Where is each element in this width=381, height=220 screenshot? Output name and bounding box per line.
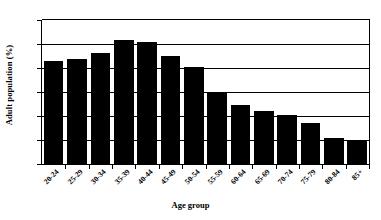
bar [114,40,134,164]
x-axis-tick-labels: 20-2425-2930-3435-3940-4445-4950-5455-59… [41,168,368,198]
bar-slot [299,20,322,164]
bar-chart: Adult population (%) 024681012 20-2425-2… [0,0,381,220]
bar-slot [229,20,252,164]
bar [91,53,111,164]
bar-series [42,20,369,164]
bar-slot [89,20,112,164]
bar [207,93,227,164]
bar [347,140,367,164]
bar [184,67,204,164]
x-axis-tick [369,164,370,169]
bar-slot [182,20,205,164]
bar [161,56,181,164]
y-axis-tick [37,164,42,165]
bar-slot [159,20,182,164]
bar [137,42,157,164]
bar-slot [275,20,298,164]
bar-slot [252,20,275,164]
bar-slot [65,20,88,164]
y-axis-title: Adult population (%) [0,0,18,170]
bar [277,115,297,164]
bar-slot [322,20,345,164]
bar-slot [112,20,135,164]
bar-slot [205,20,228,164]
bar [301,123,321,164]
y-axis-title-text: Adult population (%) [4,45,14,125]
bar [324,138,344,164]
bar [67,59,87,164]
bar [254,111,274,164]
bar-slot [135,20,158,164]
bar [231,105,251,164]
plot-area [41,20,369,165]
bar [44,61,64,164]
x-axis-title: Age group [0,200,381,210]
bar-slot [42,20,65,164]
bar-slot [345,20,368,164]
